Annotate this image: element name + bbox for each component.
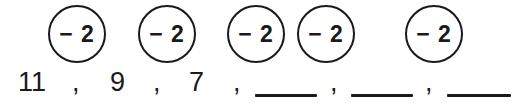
sequence-term: 9 bbox=[110, 69, 125, 96]
sequence-separator: , bbox=[330, 69, 338, 96]
operation-circle: − 2 bbox=[297, 5, 355, 63]
operation-circle: − 2 bbox=[405, 5, 463, 63]
operation-circle: − 2 bbox=[227, 5, 285, 63]
sequence-term: 11 bbox=[18, 69, 46, 96]
sequence-separator: , bbox=[425, 69, 433, 96]
sequence-term: 7 bbox=[189, 69, 204, 96]
sequence-separator: , bbox=[72, 69, 80, 96]
operation-label: − 2 bbox=[308, 23, 344, 46]
sequence-separator: , bbox=[233, 69, 241, 96]
answer-blank[interactable] bbox=[447, 94, 511, 97]
operation-label: − 2 bbox=[238, 23, 274, 46]
answer-blank[interactable] bbox=[255, 94, 317, 97]
operation-label: − 2 bbox=[416, 23, 452, 46]
operation-label: − 2 bbox=[149, 23, 185, 46]
sequence-worksheet: − 2− 2− 2− 2− 211,9,7,,, bbox=[0, 0, 525, 105]
operation-label: − 2 bbox=[59, 23, 95, 46]
answer-blank[interactable] bbox=[351, 94, 413, 97]
operation-circle: − 2 bbox=[48, 5, 106, 63]
operation-circle: − 2 bbox=[138, 5, 196, 63]
sequence-separator: , bbox=[153, 69, 161, 96]
